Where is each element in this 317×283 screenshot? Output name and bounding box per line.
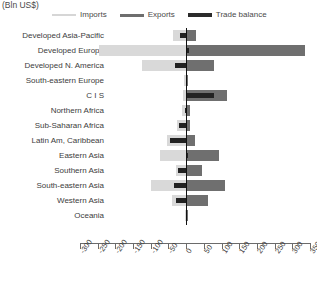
x-axis-tick-label: 0 [184, 247, 194, 256]
bar-group [0, 208, 317, 223]
bar-group [0, 163, 317, 178]
legend-swatch-exports-icon [120, 14, 144, 17]
chart-row: South-eastern Asia [0, 178, 317, 193]
plot-area: Developed Asia-PacificDeveloped EuropeDe… [0, 28, 317, 243]
category-rows: Developed Asia-PacificDeveloped EuropeDe… [0, 28, 317, 223]
bar-exports [186, 45, 305, 56]
chart-row: Eastern Asia [0, 148, 317, 163]
bar-group [0, 133, 317, 148]
bar-group [0, 73, 317, 88]
legend-item-exports: Exports [120, 11, 175, 19]
legend-item-trade-balance: Trade balance [188, 11, 267, 19]
bar-exports [186, 180, 225, 191]
chart-row: Latin Am, Caribbean [0, 133, 317, 148]
bar-group [0, 43, 317, 58]
chart-row: Sub-Saharan Africa [0, 118, 317, 133]
legend-swatch-imports-icon [52, 14, 76, 16]
trade-bar-chart: (Bln US$) Imports Exports Trade balance … [0, 0, 317, 283]
chart-row: Northern Africa [0, 103, 317, 118]
chart-legend: Imports Exports Trade balance [52, 11, 267, 19]
bar-group [0, 118, 317, 133]
legend-item-imports: Imports [52, 11, 107, 19]
bar-exports [186, 30, 196, 41]
bar-group [0, 28, 317, 43]
bar-exports [186, 195, 208, 206]
bar-group [0, 178, 317, 193]
legend-label-imports: Imports [80, 11, 107, 19]
bar-balance [175, 63, 186, 68]
bar-balance [179, 123, 186, 128]
legend-label-trade-balance: Trade balance [216, 11, 267, 19]
chart-row: Oceania [0, 208, 317, 223]
chart-row: South-eastern Europe [0, 73, 317, 88]
bar-group [0, 193, 317, 208]
bar-exports [186, 60, 214, 71]
bar-exports [186, 135, 195, 146]
bar-exports [186, 165, 202, 176]
chart-row: Developed N. America [0, 58, 317, 73]
bar-balance [186, 93, 214, 98]
x-axis: -300-250-200-150-100-5005010015020025030… [0, 243, 317, 283]
bar-balance [174, 183, 186, 188]
bar-balance [178, 168, 186, 173]
chart-title: (Bln US$) [2, 0, 39, 10]
chart-row: Western Asia [0, 193, 317, 208]
bar-imports [99, 45, 186, 56]
bar-exports [186, 150, 219, 161]
bar-group [0, 103, 317, 118]
bar-balance [176, 198, 186, 203]
chart-row: Developed Asia-Pacific [0, 28, 317, 43]
bar-group [0, 88, 317, 103]
legend-swatch-trade-balance-icon [188, 13, 212, 17]
chart-row: Developed Europe [0, 43, 317, 58]
chart-row: C I S [0, 88, 317, 103]
chart-row: Southern Asia [0, 163, 317, 178]
bar-group [0, 58, 317, 73]
bar-imports [160, 150, 187, 161]
legend-label-exports: Exports [148, 11, 175, 19]
bar-balance [170, 138, 186, 143]
bar-group [0, 148, 317, 163]
zero-axis-line [186, 28, 187, 225]
